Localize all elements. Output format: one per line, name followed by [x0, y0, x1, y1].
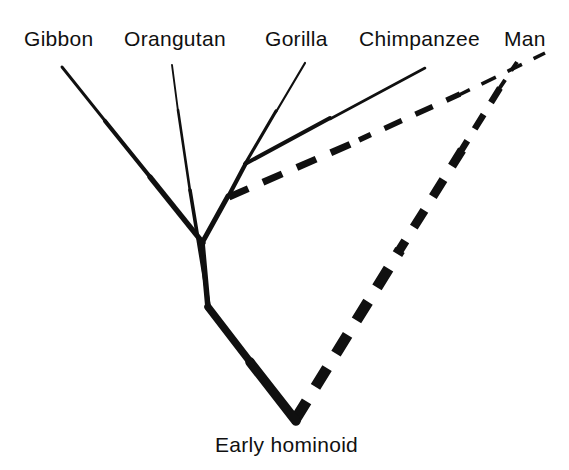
label-gibbon: Gibbon [24, 28, 94, 49]
label-gorilla: Gorilla [265, 28, 328, 49]
branch-orangutan [172, 65, 209, 306]
branch-stem-apes [202, 163, 246, 243]
branch-trunk [208, 307, 296, 421]
label-chimpanzee: Chimpanzee [359, 28, 480, 49]
tree-branches-svg [0, 0, 569, 470]
branch-man-dashed [295, 62, 517, 420]
label-orangutan: Orangutan [124, 28, 226, 49]
phylogenetic-tree-figure: Gibbon Orangutan Gorilla Chimpanzee Man … [0, 0, 569, 470]
branch-gibbon [62, 67, 203, 243]
label-man: Man [504, 28, 546, 49]
label-early-hominoid: Early hominoid [215, 434, 358, 455]
branch-chimpanzee-dashed [229, 53, 545, 197]
